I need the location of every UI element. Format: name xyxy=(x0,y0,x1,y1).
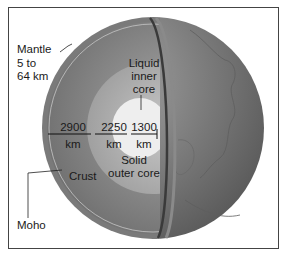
depth-unit: km xyxy=(129,138,159,150)
depth-value-mantle: 2900 xyxy=(52,121,94,133)
solid-outer-core-label: Solid xyxy=(104,154,164,166)
mantle-label: Mantle xyxy=(17,43,52,55)
crust-label: Crust xyxy=(69,170,96,182)
mantle-range-label: 5 to xyxy=(17,57,36,69)
moho-label: Moho xyxy=(17,219,46,231)
liquid-inner-core-label: core xyxy=(124,83,164,95)
depth-unit: km xyxy=(94,138,134,150)
depth-unit: km xyxy=(52,138,94,150)
mantle-leader-line xyxy=(60,44,72,52)
mantle-range-label: 64 km xyxy=(17,70,48,82)
liquid-inner-core-label: Liquid xyxy=(124,57,164,69)
liquid-inner-core-label: inner xyxy=(124,70,164,82)
depth-value-inner-core: 1300 xyxy=(129,121,159,133)
depth-value-outer-core: 2250 xyxy=(94,121,134,133)
solid-outer-core-label: outer core xyxy=(104,167,164,179)
